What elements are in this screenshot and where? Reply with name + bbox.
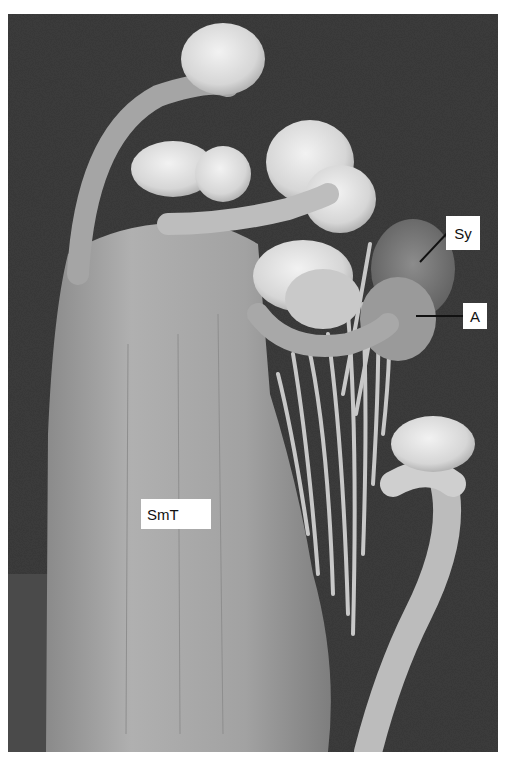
label-a: A: [463, 303, 487, 329]
anther-lower: [391, 416, 475, 472]
label-smt: SmT: [141, 499, 211, 529]
anther-top: [181, 23, 265, 95]
anther-a: [360, 277, 436, 361]
flower-micrograph: [8, 14, 498, 752]
label-sy: Sy: [446, 216, 480, 250]
